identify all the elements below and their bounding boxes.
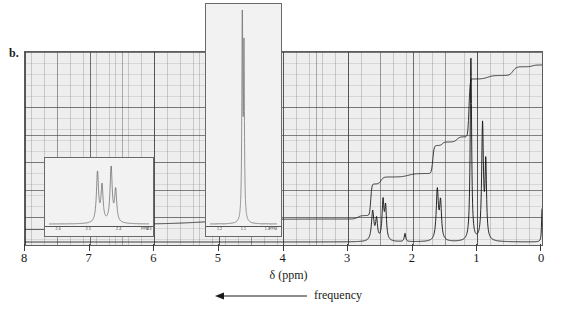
inset-high-trace-svg	[206, 4, 281, 236]
expansion-inset-2.4ppm: 2.62.52.42.3PPM	[44, 157, 154, 237]
inset-low-trace-svg	[45, 158, 153, 236]
axis-tick	[283, 244, 284, 251]
axis-tick-label: 2	[409, 251, 415, 266]
axis-tick	[476, 244, 477, 251]
inset-tick-label: PPM	[141, 227, 149, 231]
axis-tick-label: 0	[538, 251, 544, 266]
axis-tick-label: 1	[473, 251, 479, 266]
axis-tick-label: 6	[150, 251, 156, 266]
inset-low-trace	[49, 166, 149, 224]
inset-tick-label: 1.1	[241, 227, 246, 231]
axis-tick-label: 8	[21, 251, 27, 266]
frequency-direction: frequency	[0, 288, 577, 303]
axis-tick-label: 3	[344, 251, 350, 266]
axis-tick-label: 5	[215, 251, 221, 266]
axis-tick	[24, 244, 25, 251]
axis-tick-label: 4	[279, 251, 285, 266]
x-axis: 876543210	[24, 244, 541, 253]
inset-tick-label: 2.6	[55, 227, 60, 231]
axis-tick	[153, 244, 154, 251]
inset-tick-label: 2.4	[116, 227, 121, 231]
axis-tick	[89, 244, 90, 251]
axis-caption: δ (ppm)	[0, 268, 577, 283]
inset-tick-label: PPM	[269, 227, 277, 231]
frequency-label: frequency	[314, 288, 362, 303]
axis-tick	[347, 244, 348, 251]
panel-label: b.	[9, 46, 19, 61]
left-arrow-icon	[215, 291, 307, 301]
axis-tick-label: 7	[86, 251, 92, 266]
inset-low-tick-labels: 2.62.52.42.3PPM	[45, 227, 153, 236]
expansion-inset-1.1ppm: 1.21.11.0PPM	[205, 3, 282, 237]
axis-tick	[412, 244, 413, 251]
inset-tick-label: 2.5	[86, 227, 91, 231]
inset-high-trace	[210, 10, 277, 224]
inset-tick-label: 1.2	[217, 227, 222, 231]
axis-tick	[540, 244, 541, 251]
inset-high-tick-labels: 1.21.11.0PPM	[206, 227, 281, 236]
axis-tick	[218, 244, 219, 251]
